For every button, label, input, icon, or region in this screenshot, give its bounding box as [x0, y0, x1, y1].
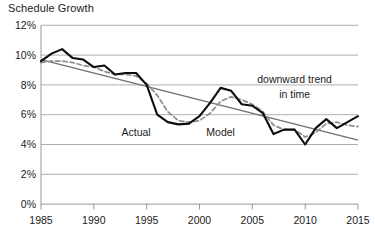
y-tick-label: 8% — [21, 79, 36, 91]
y-tick-label: 6% — [21, 108, 36, 120]
y-tick-label: 0% — [21, 198, 36, 210]
series-downward-trend-line — [41, 60, 358, 140]
series-actual-line — [41, 49, 358, 144]
x-tick-label: 1995 — [135, 214, 159, 226]
y-tick-label: 2% — [21, 168, 36, 180]
y-tick-label: 10% — [15, 49, 36, 61]
chart-container: Schedule Growth 12% 10% 8% 6 — [0, 0, 375, 240]
y-tick-label: 12% — [15, 19, 36, 31]
x-axis — [41, 204, 358, 209]
x-tick-label: 2000 — [188, 214, 212, 226]
x-tick-label: 1990 — [82, 214, 106, 226]
x-tick-label: 2010 — [294, 214, 318, 226]
y-tick-label: 4% — [21, 138, 36, 150]
annotation-downward-trend-line1: downward trend — [257, 73, 332, 85]
x-tick-label: 2015 — [346, 214, 370, 226]
chart-plot-area: 12% 10% 8% 6% 4% 2% 0% 1985 1990 1995 20… — [0, 0, 375, 240]
x-tick-label: 1985 — [29, 214, 53, 226]
series-label-actual: Actual — [122, 126, 151, 138]
y-tick-labels: 12% 10% 8% 6% 4% 2% 0% — [15, 19, 36, 210]
series-label-model: Model — [206, 126, 235, 138]
x-tick-label: 2005 — [241, 214, 265, 226]
x-tick-labels: 1985 1990 1995 2000 2005 2010 2015 — [29, 214, 370, 226]
annotation-downward-trend-line2: in time — [279, 88, 310, 100]
